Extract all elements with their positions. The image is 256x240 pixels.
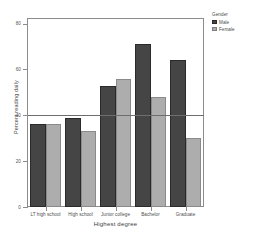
y-axis-title: Percent reading daily xyxy=(13,47,19,167)
y-tick xyxy=(23,161,28,162)
legend-swatch-male-icon xyxy=(212,20,217,25)
legend-swatch-female-icon xyxy=(212,27,217,32)
x-tick xyxy=(151,207,152,211)
x-tick xyxy=(46,207,47,211)
x-axis-label-graduate: Graduate xyxy=(156,212,216,218)
legend-item-female: Female xyxy=(212,27,256,32)
y-tick xyxy=(23,207,28,208)
y-axis: 020406080 xyxy=(0,0,256,240)
legend-label-female: Female xyxy=(219,27,235,32)
y-tick xyxy=(23,115,28,116)
legend-title: Gender xyxy=(212,12,256,17)
x-tick xyxy=(186,207,187,211)
legend-item-male: Male xyxy=(212,20,256,25)
y-tick xyxy=(23,24,28,25)
x-tick xyxy=(81,207,82,211)
y-tick xyxy=(23,69,28,70)
legend-label-male: Male xyxy=(219,20,229,25)
x-tick xyxy=(116,207,117,211)
y-tick-label: 80 xyxy=(0,21,21,26)
x-axis-title: Highest degree xyxy=(27,221,204,227)
legend: Gender Male Female xyxy=(212,12,256,34)
bar-chart-figure: 020406080 Percent reading daily Highest … xyxy=(0,0,256,240)
y-tick-label: 0 xyxy=(0,205,21,210)
